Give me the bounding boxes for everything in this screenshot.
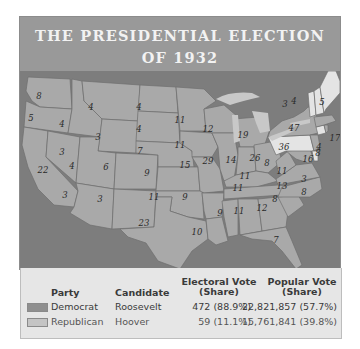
us-map-svg: 8 5 22 3 4 4 3 4 6 3 3 4 4 7 9 11 23 11 … bbox=[20, 71, 340, 269]
ev-de: 3 bbox=[301, 174, 306, 184]
ev-co: 6 bbox=[103, 162, 109, 172]
ev-md: 8 bbox=[301, 187, 307, 197]
state-sd bbox=[136, 111, 180, 143]
lake-superior bbox=[216, 93, 260, 105]
ev-ca: 22 bbox=[37, 165, 49, 175]
ev-nc: 13 bbox=[277, 181, 288, 191]
ev-nm: 3 bbox=[97, 194, 102, 204]
ev-ok: 11 bbox=[149, 192, 160, 202]
ev-ne: 7 bbox=[137, 146, 143, 156]
title-line-2: OF 1932 bbox=[20, 47, 340, 69]
ev-ky: 11 bbox=[240, 171, 251, 181]
row-republican-candidate: Hoover bbox=[115, 316, 149, 327]
state-nd bbox=[138, 85, 178, 113]
ev-mn: 11 bbox=[175, 115, 186, 125]
state-wy bbox=[98, 119, 138, 153]
state-fl bbox=[240, 227, 302, 269]
ev-wy: 3 bbox=[95, 132, 100, 142]
row-democrat-popular: 22,821,857 (57.7%) bbox=[242, 301, 337, 312]
ev-mt: 4 bbox=[87, 102, 93, 112]
ev-me: 5 bbox=[319, 97, 324, 107]
header-electoral-line2: (Share) bbox=[179, 287, 259, 297]
row-republican-party: Republican bbox=[51, 316, 103, 327]
ev-fl: 7 bbox=[273, 235, 279, 245]
ev-nh: 4 bbox=[290, 96, 296, 106]
header-candidate: Candidate bbox=[115, 288, 169, 298]
ev-id: 4 bbox=[58, 119, 64, 129]
ev-ia: 11 bbox=[175, 140, 186, 150]
ev-ri: 4 bbox=[315, 142, 321, 152]
ev-al: 11 bbox=[234, 206, 245, 216]
ev-sc: 8 bbox=[272, 194, 278, 204]
state-co bbox=[114, 153, 158, 189]
header-party: Party bbox=[51, 288, 80, 298]
header-popular: Popular Vote (Share) bbox=[265, 277, 339, 297]
title-line-1: THE PRESIDENTIAL ELECTION bbox=[20, 25, 340, 47]
row-democrat-party: Democrat bbox=[51, 301, 98, 312]
ev-az: 3 bbox=[62, 190, 67, 200]
ev-sd: 4 bbox=[135, 124, 141, 134]
ev-ut: 4 bbox=[68, 161, 74, 171]
us-map: 8 5 22 3 4 4 3 4 6 3 3 4 4 7 9 11 23 11 … bbox=[20, 71, 340, 269]
ev-vt: 3 bbox=[282, 99, 287, 109]
ev-tn: 11 bbox=[233, 183, 244, 193]
ev-ks: 9 bbox=[144, 168, 150, 178]
republican-swatch bbox=[27, 318, 48, 327]
ev-or: 5 bbox=[28, 113, 33, 123]
ev-wa: 8 bbox=[36, 91, 42, 101]
ev-mo: 15 bbox=[180, 160, 191, 170]
state-ks bbox=[156, 167, 200, 191]
ev-ga: 12 bbox=[257, 203, 268, 213]
header-popular-line2: (Share) bbox=[265, 287, 339, 297]
ev-nd: 4 bbox=[135, 102, 141, 112]
ev-tx: 23 bbox=[138, 218, 150, 228]
row-republican-popular: 15,761,841 (39.8%) bbox=[242, 316, 337, 327]
ev-mi: 19 bbox=[238, 130, 249, 140]
ev-ar: 9 bbox=[182, 192, 188, 202]
map-title: THE PRESIDENTIAL ELECTION OF 1932 bbox=[20, 25, 340, 69]
ev-pa-label: 36 bbox=[279, 142, 290, 152]
header-electoral: Electoral Vote (Share) bbox=[179, 277, 259, 297]
ev-nv: 3 bbox=[59, 147, 64, 157]
ev-la: 10 bbox=[192, 227, 203, 237]
ev-va: 11 bbox=[277, 166, 288, 176]
ev-ms: 9 bbox=[217, 208, 223, 218]
ev-il: 29 bbox=[202, 156, 214, 166]
ev-in: 14 bbox=[226, 155, 237, 165]
ev-nj: 16 bbox=[303, 154, 314, 164]
ev-wi: 12 bbox=[203, 124, 214, 134]
ev-wv: 8 bbox=[264, 158, 270, 168]
ev-ny: 47 bbox=[288, 123, 300, 133]
map-frame: THE PRESIDENTIAL ELECTION OF 1932 bbox=[19, 16, 341, 270]
ev-ma: 17 bbox=[330, 133, 340, 143]
ev-oh: 26 bbox=[249, 153, 261, 163]
row-democrat-candidate: Roosevelt bbox=[115, 301, 161, 312]
democrat-swatch bbox=[27, 303, 48, 312]
legend-table: Party Candidate Electoral Vote (Share) P… bbox=[20, 268, 342, 339]
